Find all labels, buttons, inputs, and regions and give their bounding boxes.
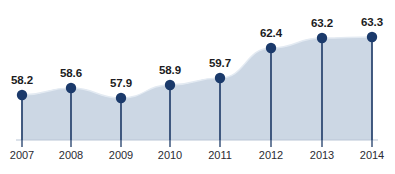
axis-label-2008: 2008 <box>59 150 83 161</box>
data-point-2009[interactable] <box>116 93 126 103</box>
value-label-2012: 62.4 <box>260 28 282 40</box>
axis-label-2009: 2009 <box>109 150 133 161</box>
data-point-2010[interactable] <box>165 80 175 90</box>
axis-label-2012: 2012 <box>259 150 283 161</box>
value-label-2009: 57.9 <box>110 78 132 90</box>
axis-label-2013: 2013 <box>310 150 334 161</box>
value-label-2007: 58.2 <box>11 75 33 87</box>
value-label-2013: 63.2 <box>311 18 333 30</box>
chart-canvas <box>0 0 395 174</box>
axis-label-2014: 2014 <box>360 150 384 161</box>
area-chart: 58.258.657.958.959.762.463.263.3 2007200… <box>0 0 395 174</box>
axis-tick-group <box>22 140 372 147</box>
value-label-2014: 63.3 <box>361 17 383 29</box>
data-point-2011[interactable] <box>215 73 225 83</box>
data-point-2008[interactable] <box>66 83 76 93</box>
axis-label-2010: 2010 <box>158 150 182 161</box>
value-label-2010: 58.9 <box>159 65 181 77</box>
data-point-2007[interactable] <box>17 90 27 100</box>
value-label-2008: 58.6 <box>60 68 82 80</box>
axis-label-2011: 2011 <box>208 150 232 161</box>
value-label-2011: 59.7 <box>209 58 231 70</box>
data-point-2013[interactable] <box>317 33 327 43</box>
axis-label-2007: 2007 <box>10 150 34 161</box>
data-point-2012[interactable] <box>266 43 276 53</box>
data-point-2014[interactable] <box>367 32 377 42</box>
